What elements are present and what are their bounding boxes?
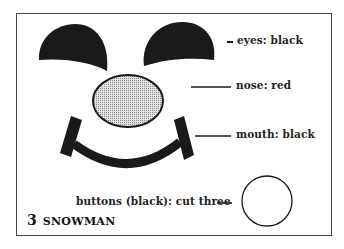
nose-shape — [93, 75, 163, 127]
button-circle-shape — [242, 176, 292, 226]
eyes-label: eyes: black — [237, 34, 303, 46]
buttons-label: buttons (black): cut three — [76, 195, 231, 207]
left-eye-shape — [39, 24, 107, 71]
pattern-title: 3SNOWMAN — [27, 212, 116, 228]
nose-label: nose: red — [236, 79, 291, 91]
right-eye-shape — [144, 22, 215, 66]
pattern-number: 3 — [27, 212, 37, 228]
pattern-name: SNOWMAN — [43, 215, 116, 228]
mouth-label: mouth: black — [236, 128, 315, 140]
